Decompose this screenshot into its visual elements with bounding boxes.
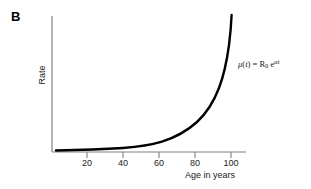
figure-panel-b: B Rate 20 40 60 80 100 Age in years μ(t)… xyxy=(0,0,311,189)
x-tick-label-100: 100 xyxy=(218,158,244,168)
equation-exponent: αt xyxy=(274,58,279,65)
y-axis-label: Rate xyxy=(37,55,47,95)
x-axis-label: Age in years xyxy=(185,170,235,180)
x-tick-label-20: 20 xyxy=(74,158,100,168)
equation-subscript-zero: 0 xyxy=(265,62,268,69)
equation-equals: = xyxy=(252,59,257,69)
equation-annotation: μ(t) = R0 eαt xyxy=(238,58,279,69)
x-tick-label-40: 40 xyxy=(110,158,136,168)
exponential-curve xyxy=(56,15,232,151)
equation-close-paren: ) xyxy=(248,59,251,69)
x-tick-label-80: 80 xyxy=(182,158,208,168)
x-tick-label-60: 60 xyxy=(146,158,172,168)
